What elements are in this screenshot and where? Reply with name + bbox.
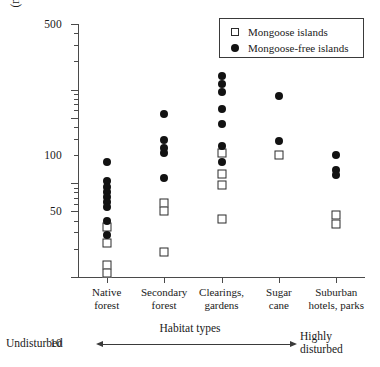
x-tick-label-line: Secondary xyxy=(141,286,187,299)
data-point xyxy=(218,88,226,96)
habitat-right-label-line2: disturbed xyxy=(300,343,343,356)
x-tick-label: Clearings,gardens xyxy=(199,286,244,311)
y-tick-major: 10 xyxy=(71,183,78,184)
y-tick-minor xyxy=(74,139,78,140)
y-tick-minor xyxy=(74,155,78,156)
y-tick-minor xyxy=(74,204,78,205)
y-tick-label: 50 xyxy=(50,205,62,217)
y-tick-minor xyxy=(74,110,78,111)
y-tick-minor xyxy=(74,33,78,34)
y-tick-minor xyxy=(74,232,78,233)
x-tick-label: Secondaryforest xyxy=(141,286,187,311)
data-point xyxy=(103,231,111,239)
y-tick-minor xyxy=(74,94,78,95)
x-tick-label-line: cane xyxy=(266,299,292,312)
data-point xyxy=(275,92,283,100)
habitat-gradient-axis: Habitat types Undisturbed Highly disturb… xyxy=(0,322,380,367)
x-tick-label-line: Native xyxy=(92,286,121,299)
data-point xyxy=(218,72,226,80)
data-point xyxy=(332,210,341,219)
data-point xyxy=(275,137,283,145)
y-tick-minor xyxy=(74,198,78,199)
legend-item-mongoose-free-islands: Mongoose-free islands xyxy=(228,40,356,56)
data-point xyxy=(102,239,111,248)
y-tick-major: 1 xyxy=(71,277,78,278)
arrow-right-icon xyxy=(290,341,297,347)
x-tick-label-line: forest xyxy=(141,299,187,312)
y-axis-title: Lizard abundance (number of diurnal liza… xyxy=(0,0,22,28)
x-tick xyxy=(164,277,165,283)
data-point xyxy=(218,142,226,150)
y-axis-title-line1: Lizard abundance xyxy=(0,0,8,28)
y-tick-major: 100 xyxy=(71,90,78,91)
y-tick-major: 500 xyxy=(71,24,78,25)
x-tick-label-line: gardens xyxy=(199,299,244,312)
data-point xyxy=(103,158,111,166)
legend-label-0: Mongoose islands xyxy=(248,26,328,38)
x-tick-label-line: hotels, parks xyxy=(308,299,364,312)
y-tick-label: 500 xyxy=(44,18,62,30)
y-tick-minor xyxy=(74,104,78,105)
y-tick-major: 5 xyxy=(71,211,78,212)
data-point xyxy=(160,247,169,256)
habitat-right-label-line1: Highly xyxy=(300,330,343,343)
arrow-left-icon xyxy=(96,341,103,347)
y-tick-minor xyxy=(74,61,78,62)
data-point xyxy=(160,174,168,182)
x-tick-label-line: Sugar xyxy=(266,286,292,299)
y-tick-minor xyxy=(74,249,78,250)
data-point xyxy=(217,170,226,179)
y-axis-title-line2: (number of diurnal lizards seen per hour… xyxy=(8,0,22,28)
habitat-axis-line xyxy=(103,344,290,345)
habitat-right-label: Highly disturbed xyxy=(300,330,343,356)
x-tick xyxy=(336,277,337,283)
habitat-left-label: Undisturbed xyxy=(6,337,63,350)
y-tick-minor xyxy=(74,221,78,222)
legend-item-mongoose-islands: Mongoose islands xyxy=(228,24,356,40)
open-square-icon xyxy=(228,28,242,37)
y-axis-line xyxy=(78,24,79,277)
y-tick-minor xyxy=(74,99,78,100)
x-tick-label: Suburbanhotels, parks xyxy=(308,286,364,311)
data-point xyxy=(102,269,111,278)
data-point xyxy=(160,110,168,118)
filled-circle-icon xyxy=(228,44,242,52)
x-tick xyxy=(279,277,280,283)
data-point xyxy=(218,105,226,113)
data-point xyxy=(160,149,168,157)
legend-label-1: Mongoose-free islands xyxy=(248,42,349,54)
data-point xyxy=(160,206,169,215)
data-point xyxy=(332,171,340,179)
plot-area: 151050100500 NativeforestSecondaryforest… xyxy=(78,24,365,277)
data-point xyxy=(274,151,283,160)
y-tick-minor xyxy=(74,45,78,46)
data-point xyxy=(217,181,226,190)
data-point xyxy=(218,120,226,128)
y-tick-minor xyxy=(74,127,78,128)
y-tick-label: 100 xyxy=(44,149,62,161)
y-tick-minor xyxy=(74,188,78,189)
data-point xyxy=(332,219,341,228)
x-tick-label-line: Clearings, xyxy=(199,286,244,299)
x-tick xyxy=(107,277,108,283)
legend: Mongoose islands Mongoose-free islands xyxy=(219,18,364,58)
x-tick-label: Sugarcane xyxy=(266,286,292,311)
data-point xyxy=(218,158,226,166)
x-tick xyxy=(222,277,223,283)
y-tick-major: 50 xyxy=(71,118,78,119)
x-tick-label: Nativeforest xyxy=(92,286,121,311)
x-tick-label-line: Suburban xyxy=(308,286,364,299)
data-point xyxy=(103,217,111,225)
y-tick-minor xyxy=(74,192,78,193)
x-tick-label-line: forest xyxy=(92,299,121,312)
data-point xyxy=(217,214,226,223)
data-point xyxy=(103,203,111,211)
data-point xyxy=(332,151,340,159)
chart-canvas: Lizard abundance (number of diurnal liza… xyxy=(0,0,380,367)
